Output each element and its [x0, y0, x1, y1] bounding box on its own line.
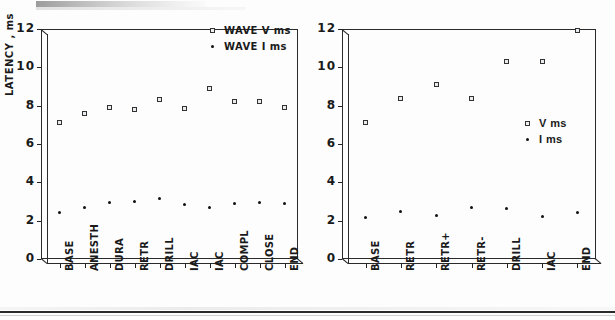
data-point [364, 216, 367, 219]
x-tick-mark [285, 263, 286, 268]
x-axis-label: END [289, 247, 300, 271]
x-axis-label: IAC [546, 251, 557, 271]
legend-item: WAVE V ms [210, 22, 291, 38]
x-axis-label: RETR [405, 241, 416, 271]
y-tick-label: 8 [13, 98, 35, 112]
legend-label: WAVE I ms [224, 41, 287, 52]
x-axis-label: DURA [114, 238, 125, 271]
data-point [434, 82, 439, 87]
y-tick-label: 6 [13, 136, 35, 150]
legend-label: I ms [539, 133, 563, 145]
data-point [283, 202, 286, 205]
data-point [363, 120, 368, 125]
data-point [157, 97, 162, 102]
chart-panel-left: LATENCY , ms 121086420 BASEANESTHDURARET… [0, 0, 312, 320]
x-tick-mark [401, 263, 402, 268]
y-tick-label: 6 [314, 136, 336, 150]
x-tick-mark [577, 263, 578, 268]
x-axis-label: DRILL [164, 237, 175, 271]
chart-panel-right: 121086420 BASERETRRETR+RETR-DRILLIACEND … [312, 0, 615, 320]
y-tick-label: 0 [13, 251, 35, 265]
legend-right: V msI ms [525, 115, 567, 147]
data-point [576, 211, 579, 214]
data-point [133, 200, 136, 203]
x-tick-mark [185, 263, 186, 268]
x-axis-label: ANESTH [89, 224, 100, 271]
data-point [399, 210, 402, 213]
data-point [158, 197, 161, 200]
legend-label: WAVE V ms [224, 25, 291, 36]
x-tick-mark [260, 263, 261, 268]
data-point [575, 28, 580, 33]
legend-item: V ms [525, 115, 567, 131]
square-marker-icon [525, 121, 530, 126]
legend-item: I ms [525, 131, 567, 147]
data-point [505, 207, 508, 210]
data-point [282, 105, 287, 110]
data-point [182, 106, 187, 111]
x-tick-mark [210, 263, 211, 268]
x-axis-label: RETR+ [440, 232, 451, 271]
data-point [82, 111, 87, 116]
legend-label: V ms [539, 117, 567, 129]
data-point [540, 59, 545, 64]
x-tick-mark [60, 263, 61, 268]
y-tick-label: 2 [13, 213, 35, 227]
data-point [207, 86, 212, 91]
x-axis-label: BASE [370, 240, 381, 271]
data-point [132, 107, 137, 112]
x-tick-mark [436, 263, 437, 268]
x-axis-label: END [581, 247, 592, 271]
x-tick-mark [472, 263, 473, 268]
data-point [258, 201, 261, 204]
data-point [58, 211, 61, 214]
data-point [108, 201, 111, 204]
data-point [435, 214, 438, 217]
x-tick-mark [366, 263, 367, 268]
data-point [257, 99, 262, 104]
dot-marker-icon [211, 45, 214, 48]
x-tick-mark [110, 263, 111, 268]
data-point [232, 99, 237, 104]
data-point [469, 96, 474, 101]
x-axis-label: BASE [64, 240, 75, 271]
data-point [107, 105, 112, 110]
page-edge-smudge [0, 307, 615, 310]
x-tick-mark [507, 263, 508, 268]
data-point [83, 206, 86, 209]
data-point [541, 215, 544, 218]
y-tick-label: 12 [13, 21, 35, 35]
data-point [398, 96, 403, 101]
y-tick-label: 12 [314, 21, 336, 35]
legend-left: WAVE V msWAVE I ms [210, 22, 291, 54]
data-point [183, 203, 186, 206]
x-axis-label: IAC [214, 251, 225, 271]
data-point [504, 59, 509, 64]
x-tick-mark [160, 263, 161, 268]
scanned-page: LATENCY , ms 121086420 BASEANESTHDURARET… [0, 0, 615, 320]
data-point [470, 206, 473, 209]
y-tick-label: 8 [314, 98, 336, 112]
x-axis-label: RETR [139, 241, 150, 271]
y-tick-label: 10 [13, 59, 35, 73]
y-tick-label: 4 [314, 174, 336, 188]
x-tick-mark [235, 263, 236, 268]
y-tick-label: 4 [13, 174, 35, 188]
x-axis-label: COMPL [239, 230, 250, 271]
data-point [233, 202, 236, 205]
square-marker-icon [210, 28, 215, 33]
page-bottom-rule [0, 311, 615, 313]
x-axis-label: IAC [189, 251, 200, 271]
y-tick-label: 2 [314, 213, 336, 227]
y-tick-label: 0 [314, 251, 336, 265]
x-tick-mark [85, 263, 86, 268]
data-point [57, 120, 62, 125]
x-axis-label: RETR- [476, 236, 487, 271]
x-axis-label: DRILL [511, 237, 522, 271]
page-bottom-rule-light [0, 315, 615, 316]
x-axis-label: CLOSE [264, 234, 275, 271]
dot-marker-icon [526, 138, 529, 141]
data-point [208, 206, 211, 209]
x-tick-mark [135, 263, 136, 268]
y-tick-label: 10 [314, 59, 336, 73]
